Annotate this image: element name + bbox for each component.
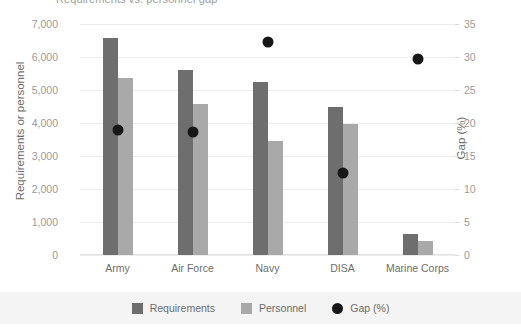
bar-group bbox=[80, 24, 155, 255]
legend-item[interactable]: Requirements bbox=[132, 302, 215, 314]
y-axis-tick-mark-right bbox=[455, 123, 459, 124]
x-axis-tick-label: Army bbox=[105, 262, 130, 274]
y-axis-tick-label-left: 1,000 bbox=[0, 216, 58, 228]
bar-group bbox=[305, 24, 380, 255]
gridline bbox=[80, 255, 455, 256]
bar-requirements[interactable] bbox=[328, 107, 343, 255]
y-axis-tick-label-right: 20 bbox=[464, 117, 504, 129]
x-axis-tick-label: Marine Corps bbox=[386, 262, 449, 274]
y-axis-tick-label-left: 7,000 bbox=[0, 18, 58, 30]
legend-square-icon bbox=[241, 303, 252, 314]
y-axis-tick-mark-right bbox=[455, 189, 459, 190]
legend-item-label: Personnel bbox=[259, 302, 306, 314]
gap-data-point[interactable] bbox=[412, 53, 423, 64]
bar-requirements[interactable] bbox=[178, 70, 193, 255]
y-axis-tick-label-right: 35 bbox=[464, 18, 504, 30]
chart-container: Requirements vs. personnel gap Requireme… bbox=[0, 0, 521, 332]
y-axis-tick-mark-right bbox=[455, 222, 459, 223]
y-axis-tick-mark-right bbox=[455, 57, 459, 58]
plot-area bbox=[80, 24, 455, 255]
gap-data-point[interactable] bbox=[337, 168, 348, 179]
bar-requirements[interactable] bbox=[103, 38, 118, 255]
y-axis-tick-label-left: 3,000 bbox=[0, 150, 58, 162]
y-axis-title-right: Gap (%) bbox=[455, 83, 467, 193]
gap-data-point[interactable] bbox=[112, 125, 123, 136]
bar-requirements[interactable] bbox=[253, 82, 268, 255]
bar-personnel[interactable] bbox=[118, 78, 133, 255]
y-axis-tick-mark-right bbox=[455, 156, 459, 157]
y-axis-tick-label-left: 2,000 bbox=[0, 183, 58, 195]
y-axis-tick-mark-right bbox=[455, 255, 459, 256]
bar-personnel[interactable] bbox=[343, 124, 358, 255]
bar-personnel[interactable] bbox=[268, 141, 283, 255]
gap-data-point[interactable] bbox=[262, 36, 273, 47]
y-axis-tick-label-right: 10 bbox=[464, 183, 504, 195]
legend-item[interactable]: Personnel bbox=[241, 302, 306, 314]
legend-item-label: Requirements bbox=[150, 302, 215, 314]
chart-title: Requirements vs. personnel gap bbox=[56, 0, 217, 5]
y-axis-tick-label-left: 6,000 bbox=[0, 51, 58, 63]
y-axis-tick-label-right: 5 bbox=[464, 216, 504, 228]
y-axis-tick-mark-right bbox=[455, 90, 459, 91]
y-axis-tick-label-right: 25 bbox=[464, 84, 504, 96]
bar-group bbox=[230, 24, 305, 255]
y-axis-tick-label-right: 30 bbox=[464, 51, 504, 63]
legend-circle-icon bbox=[332, 303, 343, 314]
bar-group bbox=[155, 24, 230, 255]
y-axis-tick-mark-right bbox=[455, 24, 459, 25]
y-axis-tick-label-left: 0 bbox=[0, 249, 58, 261]
legend-item[interactable]: Gap (%) bbox=[332, 302, 389, 314]
x-axis-tick-label: DISA bbox=[330, 262, 355, 274]
x-axis-tick-label: Air Force bbox=[171, 262, 214, 274]
chart-legend: RequirementsPersonnelGap (%) bbox=[0, 292, 521, 324]
legend-item-label: Gap (%) bbox=[350, 302, 389, 314]
bar-personnel[interactable] bbox=[418, 241, 433, 255]
legend-square-icon bbox=[132, 303, 143, 314]
bar-requirements[interactable] bbox=[403, 234, 418, 255]
gap-data-point[interactable] bbox=[187, 127, 198, 138]
y-axis-tick-label-left: 5,000 bbox=[0, 84, 58, 96]
y-axis-tick-label-left: 4,000 bbox=[0, 117, 58, 129]
y-axis-tick-label-right: 0 bbox=[464, 249, 504, 261]
y-axis-tick-label-right: 15 bbox=[464, 150, 504, 162]
x-axis-tick-label: Navy bbox=[256, 262, 280, 274]
bar-group bbox=[380, 24, 455, 255]
